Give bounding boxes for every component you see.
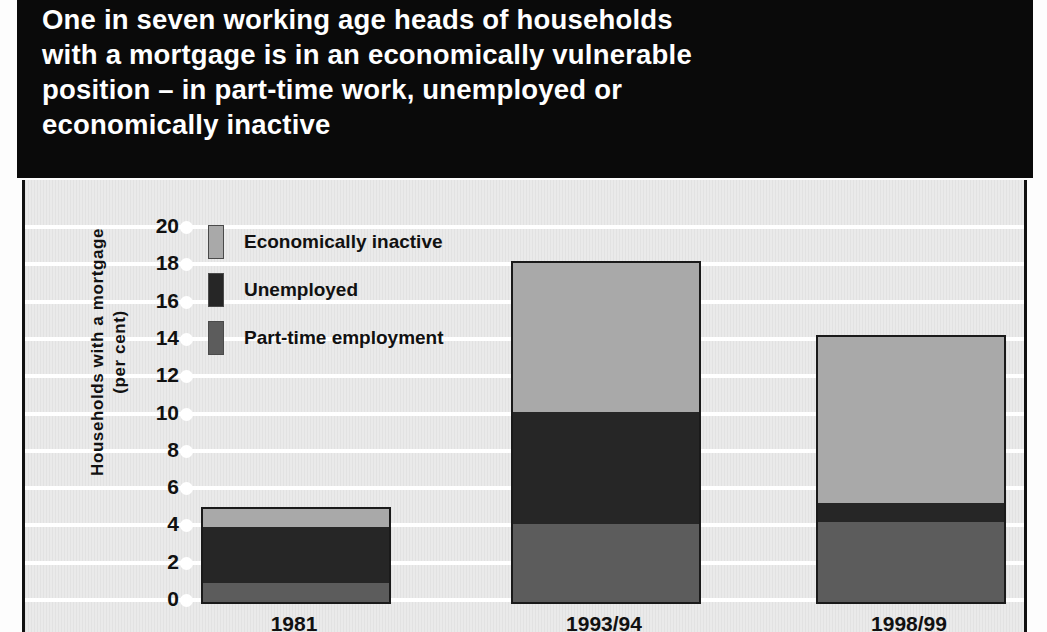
- x-axis-labels: 19811993/941998/99: [25, 180, 1024, 632]
- title-banner: One in seven working age heads of househ…: [17, 0, 1033, 178]
- x-tick-label: 1993/94: [511, 612, 697, 632]
- title-line-3: position – in part-time work, unemployed…: [42, 72, 1002, 107]
- chart-figure: One in seven working age heads of househ…: [0, 0, 1047, 632]
- page-title: One in seven working age heads of househ…: [42, 2, 1002, 142]
- x-tick-label: 1981: [201, 612, 387, 632]
- title-line-4: economically inactive: [42, 107, 1002, 142]
- x-tick-label: 1998/99: [816, 612, 1002, 632]
- title-line-1: One in seven working age heads of househ…: [42, 2, 1002, 37]
- title-line-2: with a mortgage is in an economically vu…: [42, 37, 1002, 72]
- chart-plot-frame: 02468101214161820 Households with a mort…: [22, 180, 1027, 632]
